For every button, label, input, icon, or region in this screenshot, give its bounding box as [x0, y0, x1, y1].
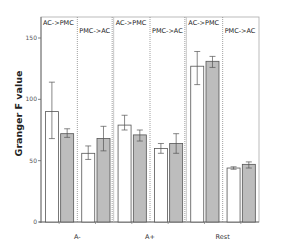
white-bar: [154, 148, 167, 222]
y-tick-label: 50: [29, 157, 37, 164]
gray-bar: [61, 134, 74, 222]
category-label: A+: [145, 233, 155, 241]
white-bar: [118, 125, 131, 222]
category-label: A-: [74, 233, 81, 241]
gray-bar: [133, 135, 146, 222]
direction-label: AC->PMC: [188, 19, 219, 27]
direction-label: PMC->AC: [225, 27, 256, 35]
direction-label: AC->PMC: [43, 19, 74, 27]
white-bar: [82, 153, 95, 222]
white-bar: [227, 168, 240, 222]
white-bar: [191, 66, 204, 222]
bar-chart: 050100150AC->PMCPMC->ACAC->PMCPMC->ACAC-…: [0, 0, 284, 247]
direction-label: AC->PMC: [116, 19, 147, 27]
direction-label: PMC->AC: [79, 27, 110, 35]
gray-bar: [242, 164, 255, 222]
y-tick-label: 0: [33, 218, 37, 225]
category-label: Rest: [216, 233, 231, 241]
gray-bar: [170, 143, 183, 222]
y-tick-label: 150: [26, 34, 38, 41]
y-tick-label: 100: [26, 95, 38, 102]
gray-bar: [206, 61, 219, 222]
direction-label: PMC->AC: [152, 27, 183, 35]
